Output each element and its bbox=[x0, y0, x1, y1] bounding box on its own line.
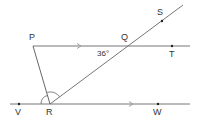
point-w-dot bbox=[157, 103, 159, 105]
label-p: P bbox=[29, 33, 35, 42]
angle-arc-prs bbox=[47, 92, 59, 97]
angle-arc-vrp bbox=[41, 95, 48, 104]
label-r: R bbox=[46, 108, 53, 117]
label-t: T bbox=[169, 50, 175, 59]
label-q: Q bbox=[121, 33, 128, 42]
transversal-rs bbox=[50, 5, 183, 104]
label-s: S bbox=[157, 8, 163, 17]
point-v-dot bbox=[18, 103, 20, 105]
geometry-diagram bbox=[0, 0, 198, 122]
point-t-dot bbox=[171, 45, 173, 47]
point-s-dot bbox=[161, 20, 163, 22]
angle-label-36: 36° bbox=[97, 50, 109, 58]
label-w: W bbox=[153, 108, 162, 117]
label-v: V bbox=[15, 108, 21, 117]
